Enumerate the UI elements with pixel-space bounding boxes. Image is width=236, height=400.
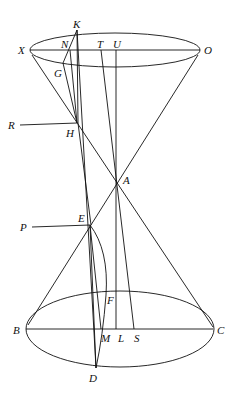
label-C: C <box>217 324 225 336</box>
label-E: E <box>77 212 85 224</box>
label-S: S <box>134 332 140 344</box>
label-L: L <box>117 332 124 344</box>
line-K-D <box>77 30 96 368</box>
label-B: B <box>13 324 20 336</box>
label-F: F <box>106 294 114 306</box>
label-K: K <box>72 18 81 30</box>
label-U: U <box>113 38 122 50</box>
label-N: N <box>60 38 69 50</box>
line-N-H <box>70 50 77 123</box>
label-H: H <box>65 127 75 139</box>
line-G-H <box>63 63 77 123</box>
label-M: M <box>100 332 111 344</box>
pointer-R <box>20 123 77 125</box>
label-D: D <box>88 372 97 384</box>
double-cone-diagram: K X N T U O G R H A P E F B M L S C D <box>0 0 236 400</box>
label-R: R <box>7 119 15 131</box>
label-G: G <box>54 67 62 79</box>
line-X-C <box>32 55 213 327</box>
label-P: P <box>19 221 27 233</box>
label-T: T <box>97 38 104 50</box>
line-O-B <box>28 55 198 325</box>
label-O: O <box>204 44 212 56</box>
line-H-E <box>78 123 91 225</box>
label-X: X <box>17 44 26 56</box>
line-E-D <box>90 225 96 368</box>
pointer-P <box>32 225 90 227</box>
label-A: A <box>122 174 130 186</box>
